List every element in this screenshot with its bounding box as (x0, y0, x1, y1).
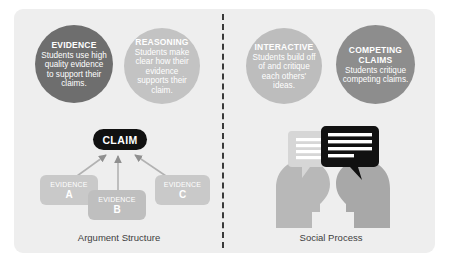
evidence-node-c: EVIDENCE C (155, 175, 210, 205)
circle-reasoning: REASONING Students make clear how their … (124, 28, 200, 104)
evidence-node-a-label: EVIDENCE (50, 181, 87, 189)
head-silhouette-right (336, 160, 390, 228)
evidence-node-b-label: EVIDENCE (98, 196, 135, 204)
evidence-node-a-letter: A (65, 189, 72, 200)
evidence-node-b: EVIDENCE B (88, 190, 146, 220)
social-process-illustration (258, 122, 408, 228)
circle-competing-claims-body: Students critique competing claims. (342, 66, 409, 85)
circle-interactive-title: INTERACTIVE (255, 42, 314, 52)
circle-interactive-body: Students build off of and critique each … (252, 53, 316, 91)
circle-interactive: INTERACTIVE Students build off of and cr… (246, 28, 322, 104)
circle-reasoning-body: Students make clear how their evidence s… (130, 48, 194, 95)
circle-evidence-body: Students use high quality evidence to su… (41, 51, 107, 89)
circle-competing-claims-title: COMPETING CLAIMS (342, 45, 409, 65)
circle-reasoning-title: REASONING (135, 37, 188, 47)
claim-node: CLAIM (93, 129, 147, 150)
argument-structure-diagram: CLAIM EVIDENCE A EVIDENCE B EVIDENCE C (22, 120, 218, 228)
figure-root: EVIDENCE Students use high quality evide… (0, 0, 449, 269)
evidence-node-c-letter: C (179, 189, 186, 200)
circle-evidence-title: EVIDENCE (51, 40, 96, 50)
circle-evidence: EVIDENCE Students use high quality evide… (35, 25, 113, 103)
caption-argument-structure: Argument Structure (48, 232, 190, 243)
section-divider (222, 14, 224, 248)
circle-competing-claims: COMPETING CLAIMS Students critique compe… (336, 25, 415, 104)
caption-social-process: Social Process (258, 232, 404, 243)
evidence-node-b-letter: B (113, 204, 120, 215)
evidence-node-c-label: EVIDENCE (164, 181, 201, 189)
